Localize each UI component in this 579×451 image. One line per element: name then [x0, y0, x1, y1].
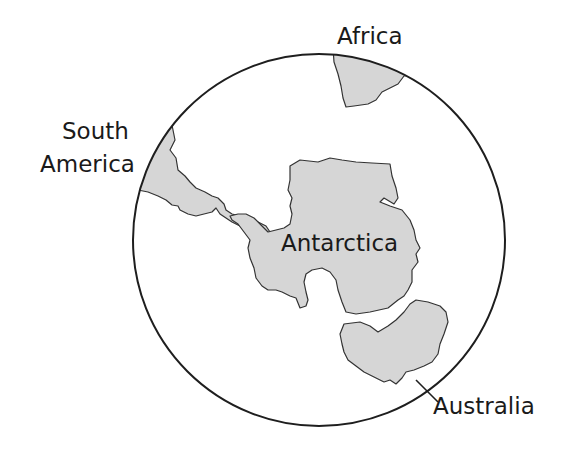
label-africa: Africa — [337, 23, 403, 49]
label-antarctica: Antarctica — [281, 230, 398, 256]
label-south-america-line1: South — [62, 118, 129, 144]
label-australia: Australia — [433, 393, 535, 419]
label-south-america-line2: America — [40, 151, 135, 177]
landmass-south-america — [120, 100, 270, 234]
southern-hemisphere-map: Africa South America Antarctica Australi… — [0, 0, 579, 451]
